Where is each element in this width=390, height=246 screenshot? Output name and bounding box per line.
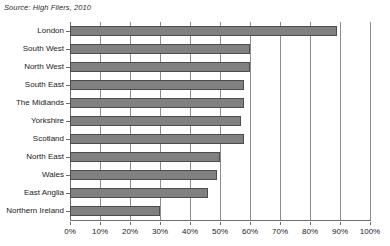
y-tick-mark [66, 175, 70, 176]
y-tick-mark [66, 49, 70, 50]
y-tick-mark [66, 31, 70, 32]
bar [70, 170, 217, 180]
x-tick-label: 100% [350, 227, 390, 236]
y-tick-mark [66, 139, 70, 140]
plot-area [70, 22, 370, 220]
bar [70, 152, 220, 162]
x-tick-mark [280, 222, 281, 225]
bar-row [70, 58, 370, 76]
bar-row [70, 22, 370, 40]
x-tick-mark [160, 222, 161, 225]
bar [70, 98, 244, 108]
y-tick-label: East Anglia [0, 189, 64, 197]
bar [70, 206, 160, 216]
y-tick-label: South East [0, 81, 64, 89]
bar-row [70, 40, 370, 58]
y-tick-label: London [0, 27, 64, 35]
y-tick-label: The Midlands [0, 99, 64, 107]
bar [70, 134, 244, 144]
y-tick-mark [66, 157, 70, 158]
x-axis-line [70, 220, 371, 221]
bar [70, 116, 241, 126]
y-tick-label: North West [0, 63, 64, 71]
bar-row [70, 148, 370, 166]
source-note: Source: High Fliers, 2010 [4, 3, 91, 12]
bar [70, 62, 250, 72]
y-tick-mark [66, 121, 70, 122]
x-tick-mark [190, 222, 191, 225]
x-tick-mark [130, 222, 131, 225]
bar [70, 26, 337, 36]
y-tick-mark [66, 85, 70, 86]
y-tick-label: Scotland [0, 135, 64, 143]
bar-row [70, 184, 370, 202]
bar-row [70, 112, 370, 130]
x-tick-mark [100, 222, 101, 225]
bar [70, 80, 244, 90]
bar [70, 188, 208, 198]
x-tick-mark [220, 222, 221, 225]
y-tick-label: North East [0, 153, 64, 161]
x-tick-mark [70, 222, 71, 225]
bar-row [70, 130, 370, 148]
bar-row [70, 166, 370, 184]
y-tick-label: South West [0, 45, 64, 53]
x-tick-mark [370, 222, 371, 225]
bar-row [70, 76, 370, 94]
y-tick-mark [66, 193, 70, 194]
bar-row [70, 94, 370, 112]
x-tick-mark [250, 222, 251, 225]
bar-series [70, 22, 370, 220]
y-tick-mark [66, 103, 70, 104]
y-tick-label: Yorkshire [0, 117, 64, 125]
bar-chart: LondonSouth WestNorth WestSouth EastThe … [0, 18, 390, 246]
y-tick-label: Northern Ireland [0, 207, 64, 215]
x-tick-mark [310, 222, 311, 225]
y-tick-mark [66, 67, 70, 68]
y-tick-mark [66, 211, 70, 212]
x-tick-mark [340, 222, 341, 225]
gridline [370, 22, 371, 220]
bar-row [70, 202, 370, 220]
y-tick-label: Wales [0, 171, 64, 179]
bar [70, 44, 250, 54]
